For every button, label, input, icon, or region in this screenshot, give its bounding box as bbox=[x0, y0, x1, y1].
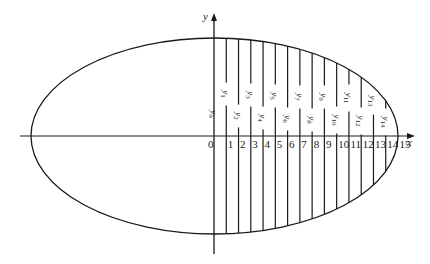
tick-label-12: 12 bbox=[363, 138, 374, 150]
tick-label-8: 8 bbox=[314, 138, 320, 150]
tick-label-2: 2 bbox=[240, 138, 246, 150]
tick-label-9: 9 bbox=[326, 138, 332, 150]
ordinate-label-y8: y8 bbox=[305, 115, 317, 124]
ordinate-label-y9: y9 bbox=[317, 92, 329, 101]
diagram-canvas: y0y1y2y3y4y5y6y7y8y9y10y11y12y13y14 x y … bbox=[0, 0, 430, 264]
y-axis-label: y bbox=[202, 10, 208, 22]
tick-label-7: 7 bbox=[301, 138, 307, 150]
tick-label-1: 1 bbox=[228, 138, 234, 150]
ordinate-label-y7: y7 bbox=[293, 92, 305, 101]
tick-label-10: 10 bbox=[338, 138, 350, 150]
ordinate-label-y4: y4 bbox=[256, 113, 268, 122]
tick-label-5: 5 bbox=[277, 138, 283, 150]
tick-label-6: 6 bbox=[289, 138, 295, 150]
tick-label-13: 13 bbox=[375, 138, 387, 150]
ordinate-label-y12: y12 bbox=[354, 115, 366, 128]
ordinate-label-y14: y14 bbox=[379, 116, 391, 129]
tick-label-14: 14 bbox=[387, 138, 399, 150]
y-axis-arrow-icon bbox=[211, 13, 217, 21]
tick-label-15: 15 bbox=[400, 138, 412, 150]
ordinate-label-y10: y10 bbox=[330, 114, 342, 127]
ordinate-label-y2: y2 bbox=[232, 111, 244, 120]
ordinate-label-y1: y1 bbox=[219, 89, 231, 98]
tick-label-4: 4 bbox=[265, 138, 271, 150]
ordinate-label-y11: y11 bbox=[342, 92, 354, 104]
ellipse-ordinate-diagram: y0y1y2y3y4y5y6y7y8y9y10y11y12y13y14 x y … bbox=[0, 0, 430, 264]
ordinate-label-y3: y3 bbox=[244, 90, 256, 99]
tick-label-0: 0 bbox=[208, 138, 214, 150]
tick-label-3: 3 bbox=[252, 138, 258, 150]
ordinate-label-y6: y6 bbox=[281, 114, 293, 123]
tick-label-11: 11 bbox=[350, 138, 361, 150]
ordinate-label-y5: y5 bbox=[268, 91, 280, 100]
ordinate-label-y13: y13 bbox=[366, 95, 378, 108]
